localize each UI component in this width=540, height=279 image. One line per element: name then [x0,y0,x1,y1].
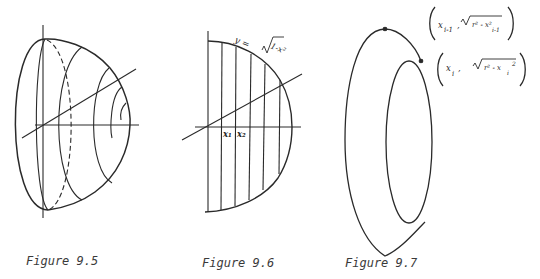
paren-right [508,7,513,40]
point-x-i [419,59,423,63]
label-x-sub: i-1 [444,26,453,34]
label-radicand: r² - x [484,64,501,72]
caption-figure-9-7: Figure 9.7 [345,256,417,270]
label-radicand: r² - x² [472,21,492,29]
paren-left [438,53,443,86]
figure-9-7-drawing [345,7,525,256]
label-x-sub: i [452,70,454,78]
caption-figure-9-6: Figure 9.6 [202,256,274,270]
label-x: x [438,20,443,30]
label-radicand-sub: i-1 [492,26,500,33]
figure-9-6-drawing [182,31,302,212]
partition-line [221,43,222,210]
paren-left [430,7,435,40]
partition-line [235,47,236,206]
depth-axis [22,69,136,138]
label-radicand-sup: 2 [511,60,516,67]
caption-figure-9-5: Figure 9.5 [26,254,98,268]
curve-label-radicand: 1-x² [269,42,287,56]
point-label-upper: x i-1 , r² - x² i-1 [438,20,500,34]
outer-band-top [385,29,421,61]
cross-section-2 [59,47,82,200]
partition-line [279,80,280,174]
figure-9-5-drawing [15,25,139,218]
cross-section-5 [121,103,126,120]
partition-label-x2: x₂ [236,129,246,139]
point-x-i-minus-1 [383,27,387,31]
partition-label-x1: x₁ [222,129,232,139]
label-x: x [446,63,451,73]
inner-cross-section-ellipse [386,61,432,223]
label-radicand-sub: i [507,69,509,76]
label-comma: , [458,63,461,73]
figures-canvas: y = 1-x² x₁ x₂ x i-1 , r² - x² i-1 x i ,… [0,0,540,279]
paren-right [520,53,525,86]
label-comma: , [457,20,460,30]
